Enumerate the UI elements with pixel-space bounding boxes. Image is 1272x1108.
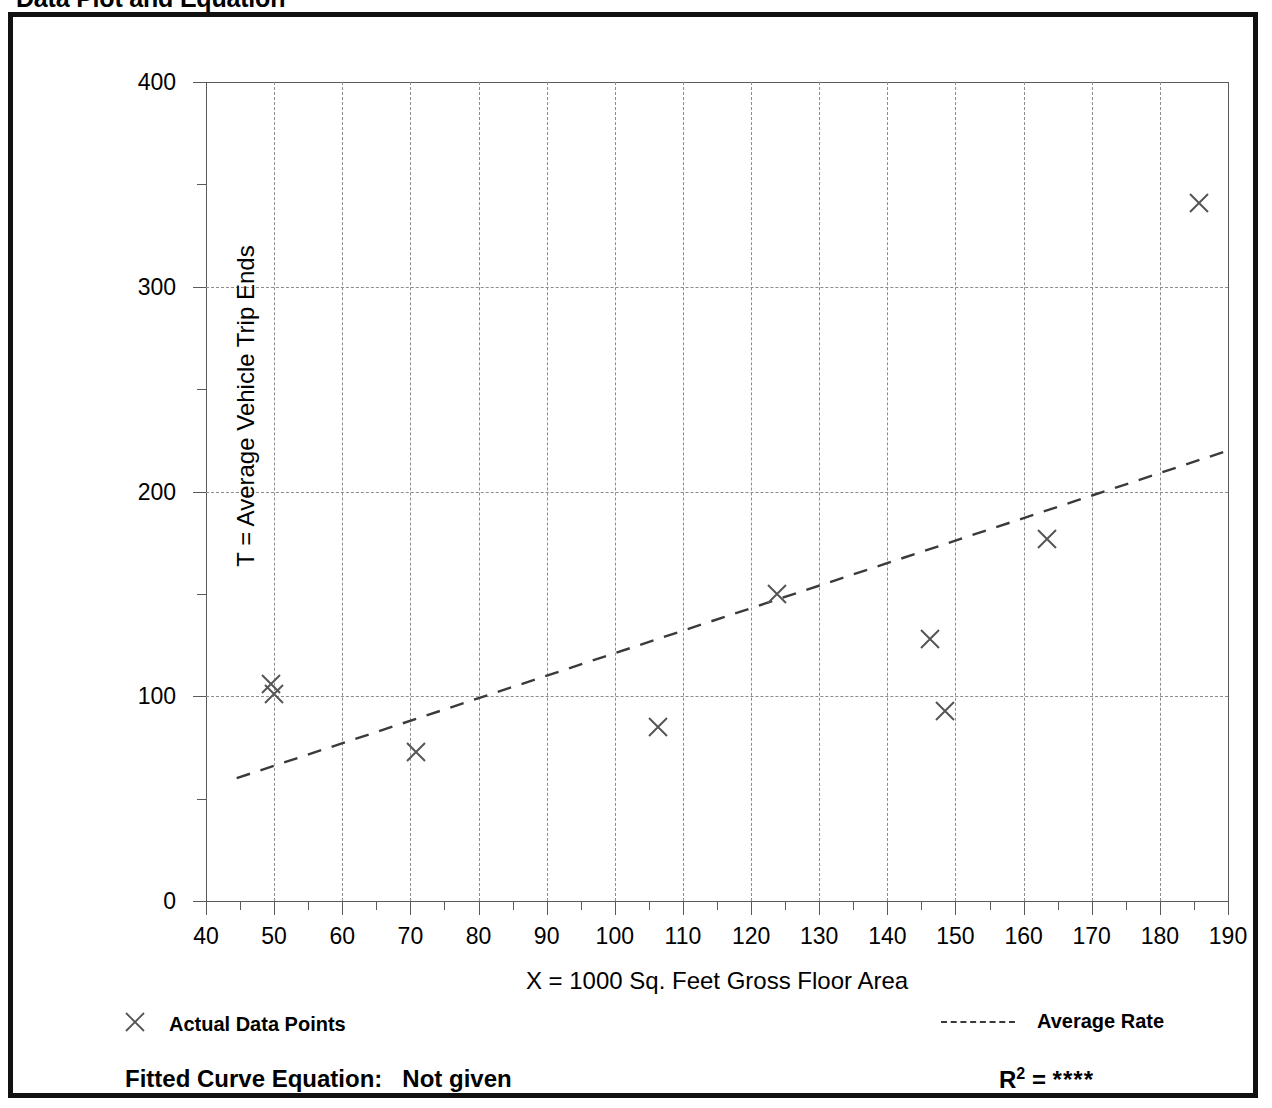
x-tick-minor: [1126, 901, 1127, 910]
fitted-curve-equation-label: Fitted Curve Equation:: [125, 1065, 382, 1092]
x-tick-minor: [649, 901, 650, 910]
y-tick-minor: [197, 389, 206, 390]
r-squared-exponent: 2: [1016, 1065, 1025, 1082]
x-tick-major: [819, 901, 820, 915]
x-tick-major: [1024, 901, 1025, 915]
x-tick-major: [751, 901, 752, 915]
y-tick-major: [193, 287, 206, 288]
y-tick-major: [193, 492, 206, 493]
y-tick-label: 400: [56, 71, 176, 94]
x-tick-major: [274, 901, 275, 915]
r-squared-label: R: [999, 1066, 1016, 1093]
x-tick-minor: [581, 901, 582, 910]
x-tick-minor: [444, 901, 445, 910]
y-tick-minor: [197, 594, 206, 595]
x-tick-minor: [717, 901, 718, 910]
x-tick-label: 190: [1188, 925, 1268, 948]
figure-frame: 0100200300400 40506070809010011012013014…: [8, 12, 1258, 1098]
data-point-marker: [261, 681, 287, 707]
data-point-marker: [932, 698, 958, 724]
x-tick-major: [1228, 901, 1229, 915]
legend-label-actual-data-points: Actual Data Points: [169, 1013, 346, 1036]
x-tick-minor: [1058, 901, 1059, 910]
y-axis-title: T = Average Vehicle Trip Ends: [232, 146, 260, 666]
y-tick-label: 100: [56, 685, 176, 708]
legend-item-average-rate: Average Rate: [941, 1010, 1164, 1033]
x-tick-minor: [990, 901, 991, 910]
x-cross-marker-icon: [123, 1010, 147, 1038]
y-tick-label: 200: [56, 481, 176, 504]
x-tick-major: [342, 901, 343, 915]
y-tick-label: 300: [56, 276, 176, 299]
x-tick-minor: [853, 901, 854, 910]
data-point-marker: [1034, 526, 1060, 552]
x-tick-minor: [921, 901, 922, 910]
plot-border-right: [1228, 82, 1229, 901]
y-tick-major: [193, 901, 206, 902]
y-tick-minor: [197, 184, 206, 185]
fitted-curve-equation: Fitted Curve Equation: Not given: [125, 1065, 512, 1093]
data-point-marker: [1186, 190, 1212, 216]
y-tick-major: [193, 82, 206, 83]
x-tick-minor: [785, 901, 786, 910]
x-tick-major: [955, 901, 956, 915]
x-tick-major: [615, 901, 616, 915]
data-point-marker: [403, 739, 429, 765]
x-axis-title: X = 1000 Sq. Feet Gross Floor Area: [206, 967, 1228, 995]
x-tick-minor: [240, 901, 241, 910]
y-tick-major: [193, 696, 206, 697]
x-tick-minor: [513, 901, 514, 910]
data-point-marker: [764, 581, 790, 607]
y-tick-minor: [197, 799, 206, 800]
x-tick-major: [1160, 901, 1161, 915]
r-squared-statistic: R2 = ****: [999, 1065, 1094, 1094]
y-tick-label: 0: [56, 890, 176, 913]
x-tick-minor: [376, 901, 377, 910]
x-tick-minor: [308, 901, 309, 910]
x-tick-major: [887, 901, 888, 915]
x-tick-major: [479, 901, 480, 915]
x-tick-major: [206, 901, 207, 915]
r-squared-equals: =: [1032, 1066, 1046, 1093]
plot-area: 0100200300400 40506070809010011012013014…: [206, 82, 1228, 901]
x-tick-major: [1092, 901, 1093, 915]
r-squared-value: ****: [1053, 1066, 1094, 1093]
fitted-curve-equation-value: Not given: [402, 1065, 511, 1092]
x-tick-minor: [1194, 901, 1195, 910]
data-point-marker: [917, 626, 943, 652]
x-tick-major: [547, 901, 548, 915]
data-point-marker: [645, 714, 671, 740]
average-rate-trend-line: [206, 82, 1228, 901]
legend-label-average-rate: Average Rate: [1037, 1010, 1164, 1033]
legend-item-actual-data-points: Actual Data Points: [123, 1010, 346, 1038]
x-tick-major: [410, 901, 411, 915]
dashed-line-swatch-icon: [941, 1021, 1015, 1023]
x-tick-major: [683, 901, 684, 915]
